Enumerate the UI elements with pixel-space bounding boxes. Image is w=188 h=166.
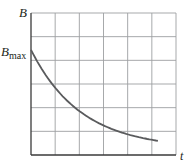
chart: B Bmax t	[0, 0, 188, 166]
y-axis-label: B	[19, 5, 27, 20]
bmax-subscript: max	[9, 50, 26, 61]
bmax-label: Bmax	[1, 44, 26, 61]
bmax-main: B	[1, 44, 9, 59]
decay-curve	[31, 50, 158, 141]
x-axis-label: t	[180, 149, 184, 163]
